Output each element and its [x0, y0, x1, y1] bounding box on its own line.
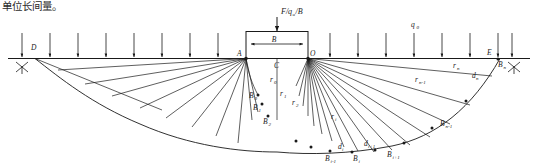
radius-label-r2-main: r — [292, 98, 295, 107]
slip-label-B1-sub: 1 — [259, 108, 262, 113]
chord-label-dn-sub: n — [476, 76, 479, 81]
radius-label-rnm1-sub: n-1 — [419, 80, 426, 85]
ray-fan-left — [35, 59, 258, 144]
slip-label-Bip1-main: B — [387, 150, 392, 159]
slip-label-Bim1-main: B — [325, 154, 330, 163]
load-formula-tail: /B — [295, 7, 303, 16]
slip-label-Bi: B i — [353, 154, 361, 164]
slip-label-B1: B 1 — [253, 103, 261, 113]
chord-label-dip1-sub: i+1 — [368, 144, 375, 149]
load-formula-main: F/q — [280, 7, 292, 16]
slip-label-B2-main: B — [263, 117, 268, 126]
surcharge-label-sub: 0 — [417, 25, 420, 30]
chord-D-inner — [35, 59, 162, 111]
chord-label-di-sub: i — [342, 147, 344, 152]
radius-label-r1-sub: 1 — [284, 94, 287, 99]
surcharge-arrows-left — [22, 33, 218, 57]
slip-label-Bim1-sub: i-1 — [331, 159, 337, 164]
slip-label-Bn: B n — [498, 60, 507, 70]
slip-label-Bip1: B i+1 — [387, 150, 400, 160]
slip-label-Bnm1: B n-1 — [440, 119, 452, 129]
slip-label-Bn-sub: n — [504, 65, 507, 70]
diagram-canvas: 单位长间量。 — [0, 0, 538, 167]
point-E-label: E — [486, 48, 492, 57]
footing-block — [246, 32, 308, 59]
radius-label-r0: r 0 — [270, 75, 277, 85]
radius-label-ri-sub: i — [335, 117, 337, 122]
slip-label-Bn-main: B — [498, 60, 503, 69]
radius-label-rnm1: r n-1 — [415, 75, 426, 85]
radius-label-r1: r 1 — [280, 89, 287, 99]
radius-label-r2-sub: 2 — [296, 103, 299, 108]
chord-label-di: d i — [338, 142, 344, 152]
chord-label-dn: d n — [472, 71, 479, 81]
slip-label-Bi-main: B — [353, 154, 358, 163]
radius-label-ri-main: r — [331, 112, 334, 121]
radius-label-rnm1-main: r — [415, 75, 418, 84]
point-A-label: A — [236, 49, 242, 58]
support-hatch-left — [16, 62, 28, 74]
slip-label-Bnm1-sub: n-1 — [446, 124, 453, 129]
radius-label-r0-main: r — [270, 75, 273, 84]
support-hatch-right — [508, 62, 520, 74]
slip-label-Bip1-sub: i+1 — [393, 155, 400, 160]
footing-width-label: B — [272, 35, 277, 44]
radius-label-rn-sub: n — [457, 66, 460, 71]
radius-label-ri: r i — [331, 112, 337, 122]
slip-label-Bim1: B i-1 — [325, 154, 336, 164]
point-D-label: D — [30, 43, 37, 52]
surcharge-label: q 0 — [411, 20, 420, 30]
slip-label-B1-main: B — [253, 103, 258, 112]
radius-label-rn: r n — [453, 61, 460, 71]
radius-label-r2: r 2 — [292, 98, 299, 108]
slip-label-Bnm1-main: B — [440, 119, 445, 128]
chord-label-dip1: d i+1 — [364, 139, 375, 149]
bearing-capacity-diagram: 单位长间量。 — [0, 0, 538, 167]
slip-label-B0-main: B — [249, 91, 254, 100]
surcharge-label-main: q — [411, 20, 415, 29]
slip-label-B0: B 0 — [249, 91, 258, 101]
radius-label-r0-sub: 0 — [274, 80, 277, 85]
caption-text: 单位长间量。 — [2, 0, 62, 12]
slip-label-B0-sub: 0 — [255, 96, 258, 101]
slip-label-B2-sub: 2 — [269, 122, 272, 127]
radius-label-rn-main: r — [453, 61, 456, 70]
slip-label-B2: B 2 — [263, 117, 272, 127]
load-formula: F/q u /B — [280, 7, 303, 17]
slip-label-Bi-sub: i — [359, 159, 361, 164]
radius-label-r1-main: r — [280, 89, 283, 98]
ray-fan-right — [296, 59, 500, 153]
surcharge-arrows-right — [330, 33, 512, 57]
point-O-label: O — [310, 49, 316, 58]
